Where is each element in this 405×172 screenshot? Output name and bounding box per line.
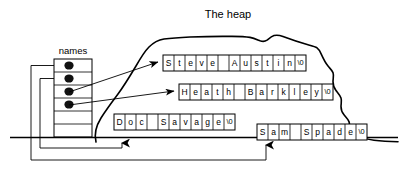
char-cell: A: [232, 58, 238, 68]
names-array-label: names: [59, 45, 88, 56]
char-cell: m: [281, 127, 288, 137]
char-cell: r: [271, 87, 274, 97]
diagram-canvas: The heap names: [0, 0, 405, 172]
names-array: [54, 59, 92, 137]
char-cell: e: [193, 87, 198, 97]
string-box-steve-austin: S t e v e A u s t i n \0: [163, 55, 306, 71]
char-cell: e: [216, 117, 221, 127]
char-cell: d: [337, 127, 342, 137]
char-cell: e: [303, 87, 308, 97]
string-box-heath-barkley: H e a t h B a r k l e y \0: [179, 84, 333, 100]
char-cell: o: [128, 117, 133, 127]
char-cell-null: \0: [226, 117, 232, 126]
char-cell: S: [304, 127, 310, 137]
char-cell-null: \0: [297, 58, 303, 67]
char-cell: a: [194, 117, 199, 127]
char-cell-null: \0: [358, 127, 364, 136]
heap-title: The heap: [205, 8, 251, 20]
names-cell-pointer-dot-0: [64, 61, 73, 69]
char-cell-null: \0: [324, 87, 330, 96]
char-cell: a: [204, 87, 209, 97]
char-cell: u: [243, 58, 248, 68]
char-cell: a: [259, 87, 264, 97]
char-cell: h: [226, 87, 231, 97]
char-cell: S: [166, 58, 172, 68]
char-cell: D: [116, 117, 122, 127]
char-cell: S: [260, 127, 266, 137]
char-cell: g: [205, 117, 210, 127]
char-cell: l: [294, 87, 296, 97]
char-cell: e: [210, 58, 215, 68]
string-box-sam-spade: S a m S p a d e \0: [257, 124, 367, 140]
char-cell: i: [278, 58, 280, 68]
char-cell: a: [172, 117, 177, 127]
char-cell: S: [161, 117, 167, 127]
heap-diagram: The heap names: [0, 0, 405, 172]
char-cell: e: [188, 58, 193, 68]
char-cell: e: [348, 127, 353, 137]
char-cell: s: [254, 58, 258, 68]
string-box-doc-savage: D o c S a v a g e \0: [114, 114, 235, 130]
char-cell: H: [181, 87, 187, 97]
char-cell: p: [315, 127, 320, 137]
names-cell-pointer-dot-2: [64, 87, 73, 95]
char-cell: a: [326, 127, 331, 137]
char-cell: B: [248, 87, 254, 97]
char-cell: a: [271, 127, 276, 137]
char-cell: n: [287, 58, 292, 68]
names-cell-pointer-dot-1: [64, 74, 73, 82]
